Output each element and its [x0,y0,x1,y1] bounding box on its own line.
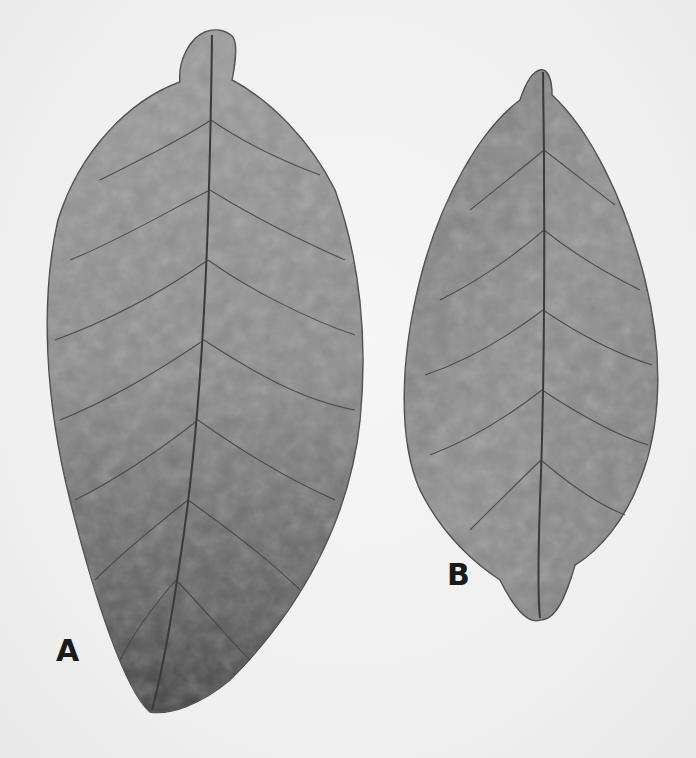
leaf-a [47,30,363,713]
leaf-label-a: A [56,636,79,666]
leaf-b [404,70,657,621]
leaf-label-b: B [447,560,470,590]
leaves-illustration [0,0,696,758]
photograph: A B [0,0,696,758]
